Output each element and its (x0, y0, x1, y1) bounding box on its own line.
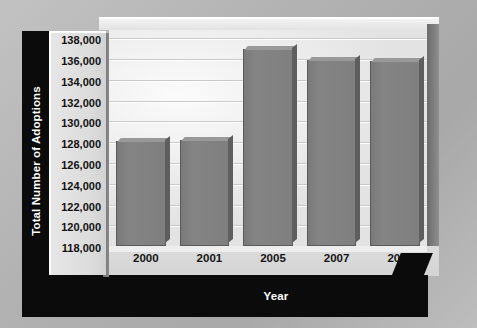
plot-right-bevel (427, 24, 439, 271)
x-axis-tick-label: 2005 (260, 252, 286, 264)
bar-top-face (308, 57, 359, 61)
bar-side-face (292, 44, 297, 243)
bar-side-face (355, 55, 360, 243)
y-axis-tick-label: 134,000 (61, 76, 101, 88)
y-axis-tick-label: 120,000 (61, 221, 101, 233)
x-axis-title: Year (22, 276, 410, 316)
y-axis-tick-label: 136,000 (61, 55, 101, 67)
bar-side-face (228, 135, 233, 243)
y-axis-tick-label: 122,000 (61, 201, 101, 213)
x-axis-tick-labels: 20002001200520072008 (109, 252, 435, 272)
bar-series (109, 30, 427, 246)
y-axis-tick-label: 130,000 (61, 117, 101, 129)
bar-side-face (165, 136, 170, 243)
bar (307, 60, 357, 246)
y-axis-tick-label: 126,000 (61, 159, 101, 171)
bar-top-face (245, 46, 296, 50)
x-axis-tick-label: 2001 (197, 252, 223, 264)
bar-top-face (181, 137, 232, 141)
y-axis-title: Total Number of Adoptions (22, 31, 49, 290)
y-axis-tick-label: 128,000 (61, 138, 101, 150)
y-axis-tick-label: 118,000 (62, 242, 101, 254)
y-axis-tick-label: 138,000 (61, 34, 101, 46)
bar (370, 61, 420, 246)
bar (243, 49, 293, 246)
bar-top-face (372, 58, 423, 62)
x-axis-title-text: Year (143, 290, 288, 302)
bar (180, 140, 230, 246)
bar (116, 141, 166, 246)
y-axis-tick-label: 132,000 (61, 97, 101, 109)
y-axis-title-text: Total Number of Adoptions (30, 86, 42, 235)
x-axis-tick-label: 2000 (133, 252, 159, 264)
plot-top-bevel (99, 17, 439, 30)
bar-top-face (117, 138, 168, 142)
x-axis-tick-label: 2007 (324, 252, 350, 264)
y-axis-tick-label: 124,000 (61, 180, 101, 192)
bar-side-face (419, 56, 424, 243)
y-axis-tick-labels: 118,000120,000122,000124,000126,000128,0… (49, 36, 104, 268)
chart-screenshot: 20002001200520072008 118,000120,000122,0… (0, 0, 477, 328)
